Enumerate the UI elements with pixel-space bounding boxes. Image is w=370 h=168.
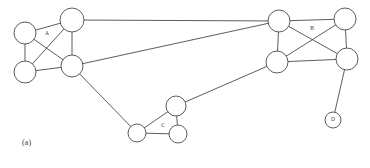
- graph-node: [61, 55, 83, 77]
- graph-edge: [335, 70, 345, 112]
- graph-node: [60, 8, 84, 32]
- graph-edge: [278, 32, 279, 51]
- cluster-label-c: C: [161, 122, 165, 128]
- graph-edge: [290, 19, 334, 20]
- nodes-layer: [14, 8, 358, 143]
- graph-node: [169, 125, 187, 143]
- graph-edge: [80, 74, 131, 127]
- graph-node: [14, 22, 36, 44]
- graph-node: [166, 96, 186, 116]
- graph-node: [266, 51, 288, 73]
- graph-figure: ABCD (a): [0, 0, 370, 168]
- node-label-d: D: [331, 116, 335, 122]
- graph-edge: [288, 59, 336, 61]
- graph-node: [268, 10, 290, 32]
- figure-caption: (a): [22, 138, 31, 147]
- cluster-label-b: B: [310, 25, 314, 31]
- graph-node: [14, 61, 36, 83]
- graph-edge: [36, 23, 61, 30]
- graph-edge: [36, 67, 61, 70]
- cluster-label-a: A: [45, 30, 49, 36]
- graph-canvas: ABCD: [0, 0, 370, 168]
- graph-node: [334, 8, 356, 30]
- graph-edge: [346, 30, 347, 48]
- graph-edge: [177, 116, 178, 125]
- graph-node: [128, 124, 146, 142]
- graph-edge: [185, 66, 267, 102]
- graph-node: [336, 48, 358, 70]
- graph-edge: [84, 20, 268, 21]
- graph-edge: [146, 133, 169, 134]
- graph-edge: [83, 23, 269, 63]
